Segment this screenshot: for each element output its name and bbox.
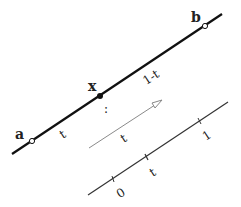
label-b: b xyxy=(191,9,201,25)
label-t-main: t xyxy=(57,127,69,141)
point-a-marker xyxy=(29,138,34,143)
tick-label-t: t xyxy=(147,165,159,179)
label-a: a xyxy=(15,126,24,142)
number-line xyxy=(88,102,228,195)
label-t-arrow: t xyxy=(118,131,130,145)
tick-label-1: 1 xyxy=(200,128,214,144)
arrow-head-icon xyxy=(152,100,162,108)
label-dots: : xyxy=(104,102,108,116)
point-b-marker xyxy=(202,23,207,28)
diagram-canvas: a b x t 1-t : t 0 t 1 xyxy=(0,0,241,207)
label-1-minus-t: 1-t xyxy=(140,67,162,88)
main-line xyxy=(12,14,222,154)
tick-label-0: 0 xyxy=(114,185,128,201)
point-x-marker xyxy=(97,93,103,99)
label-x: x xyxy=(88,78,97,94)
